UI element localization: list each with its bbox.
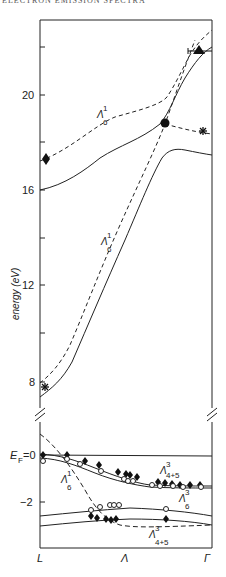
annotation-lambda6-3-upper: Λ 3 6 xyxy=(178,488,190,511)
plot-frame xyxy=(40,20,212,548)
axis-break-marks xyxy=(35,408,217,421)
asterisk-marker xyxy=(199,127,207,135)
band-diagonal-dashed xyxy=(40,40,195,383)
ytick-12: 12 xyxy=(22,279,34,291)
ytick-8: 8 xyxy=(29,376,35,388)
circle-marker xyxy=(161,119,170,128)
annotation-lambda6-1-lower: Λ 1 6 xyxy=(60,469,72,492)
annotation-lambda6-1-diag: Λ 1 6 xyxy=(100,231,112,254)
svg-text:6: 6 xyxy=(67,483,72,492)
svg-text:6: 6 xyxy=(107,245,112,254)
svg-text:6: 6 xyxy=(103,118,108,127)
ytick-16: 16 xyxy=(22,184,34,196)
svg-text:4+5: 4+5 xyxy=(166,471,180,480)
svg-text:3: 3 xyxy=(155,524,160,533)
y-axis-label: energy (eV) xyxy=(10,268,21,320)
svg-text:3: 3 xyxy=(166,460,171,469)
ytick-20: 20 xyxy=(22,89,34,101)
ef-eq: =0 xyxy=(23,449,36,461)
band-upper-solid xyxy=(40,47,212,190)
annotation-lambda45-3-upper: Λ 3 4+5 xyxy=(159,460,180,480)
svg-text:6: 6 xyxy=(185,502,190,511)
y-ticks xyxy=(40,47,45,502)
band-upper-dashed xyxy=(40,30,212,161)
annotation-lambda45-3-lower: Λ 3 4+5 xyxy=(148,524,169,547)
band-diagonal-solid xyxy=(40,149,212,397)
svg-text:3: 3 xyxy=(185,488,190,497)
xtick-Gamma: Γ xyxy=(204,552,211,564)
svg-text:1: 1 xyxy=(107,231,112,240)
ef-label: E xyxy=(10,449,18,461)
band-structure-chart: 20 16 12 8 energy (eV) E F =0 −2 L Λ Γ xyxy=(0,0,226,577)
xtick-Lambda: Λ xyxy=(120,552,128,564)
xtick-L: L xyxy=(37,552,43,564)
svg-text:1: 1 xyxy=(103,104,108,113)
asterisk-marker-low xyxy=(41,383,49,391)
svg-text:4+5: 4+5 xyxy=(155,538,169,547)
svg-text:1: 1 xyxy=(67,469,72,478)
ytick-m2: −2 xyxy=(20,496,33,508)
diamond-marker xyxy=(42,153,50,165)
band-lambda45-3-lower xyxy=(40,519,212,526)
